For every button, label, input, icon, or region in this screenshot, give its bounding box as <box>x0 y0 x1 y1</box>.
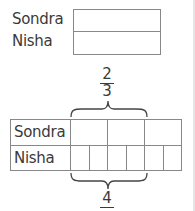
label-col-divider <box>70 119 71 171</box>
answer-value: 4 <box>97 189 117 207</box>
nisha-part-divider <box>163 145 164 171</box>
row-label-sondra: Sondra <box>14 123 65 141</box>
top-bar-divider <box>73 31 161 32</box>
fraction-denominator: 3 <box>97 82 117 100</box>
sondra-part-divider <box>107 119 108 171</box>
top-label-nisha: Nisha <box>12 32 52 50</box>
row-label-nisha: Nisha <box>14 149 54 167</box>
top-label-sondra: Sondra <box>12 10 63 28</box>
page-edge <box>193 0 195 211</box>
nisha-part-divider <box>126 145 127 171</box>
bottom-brace-icon <box>70 172 148 190</box>
sondra-part-divider <box>144 119 145 171</box>
fraction-numerator: 2 <box>97 65 117 83</box>
top-empty-bar <box>73 9 161 55</box>
nisha-part-divider <box>89 145 90 171</box>
top-brace-icon <box>70 100 148 118</box>
answer-underline <box>100 207 114 208</box>
row-divider <box>10 145 182 146</box>
